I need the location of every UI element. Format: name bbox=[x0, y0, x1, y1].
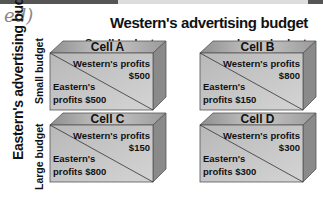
cell-a: Cell AWestern's profits$500Eastern'sprof… bbox=[50, 40, 166, 110]
cell-d: Cell DWestern's profits$300Eastern'sprof… bbox=[200, 112, 316, 182]
eastern-profits-label: Eastern's bbox=[53, 81, 95, 92]
western-profits-label: Western's profits bbox=[73, 130, 150, 141]
western-profits-value: $800 bbox=[279, 70, 300, 81]
cell-side-face bbox=[303, 41, 316, 110]
eastern-profits-value: profits $500 bbox=[53, 94, 106, 105]
cell-title: Cell C bbox=[90, 112, 124, 126]
cell-side-face bbox=[153, 113, 166, 182]
payoff-matrix: Cell AWestern's profits$500Eastern'sprof… bbox=[0, 0, 323, 198]
western-profits-value: $150 bbox=[129, 142, 150, 153]
western-profits-label: Western's profits bbox=[223, 58, 300, 69]
eastern-profits-value: profits $300 bbox=[203, 166, 256, 177]
western-profits-label: Western's profits bbox=[223, 130, 300, 141]
eastern-profits-label: Eastern's bbox=[203, 153, 245, 164]
cell-title: Cell B bbox=[240, 40, 274, 54]
western-profits-value: $500 bbox=[129, 70, 150, 81]
cell-b: Cell BWestern's profits$800Eastern'sprof… bbox=[200, 40, 316, 110]
eastern-profits-value: profits $800 bbox=[53, 166, 106, 177]
cell-side-face bbox=[303, 113, 316, 182]
western-profits-value: $300 bbox=[279, 142, 300, 153]
cell-c: Cell CWestern's profits$150Eastern'sprof… bbox=[50, 112, 166, 182]
eastern-profits-label: Eastern's bbox=[53, 153, 95, 164]
eastern-profits-label: Eastern's bbox=[203, 81, 245, 92]
cell-title: Cell D bbox=[240, 112, 274, 126]
cell-side-face bbox=[153, 41, 166, 110]
western-profits-label: Western's profits bbox=[73, 58, 150, 69]
cell-title: Cell A bbox=[91, 40, 125, 54]
eastern-profits-value: profits $150 bbox=[203, 94, 256, 105]
